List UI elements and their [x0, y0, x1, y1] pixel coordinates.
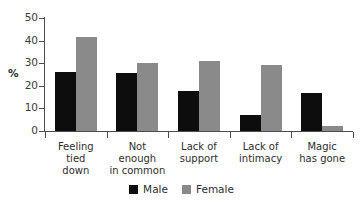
x-axis-category-label: Magic has gone: [285, 141, 359, 165]
x-axis-tick: [291, 132, 292, 138]
x-axis-tick: [353, 132, 354, 138]
bar-female: [261, 65, 282, 131]
bar-male: [116, 73, 137, 131]
x-axis-tick: [230, 132, 231, 138]
y-axis-tick-label: 20: [8, 80, 38, 91]
y-axis-title: %: [8, 67, 19, 79]
bar-female: [199, 61, 220, 131]
x-axis-tick: [45, 132, 46, 138]
y-axis-tick-label: 40: [8, 35, 38, 46]
bar-male: [178, 91, 199, 131]
chart-legend: MaleFemale: [0, 183, 363, 195]
y-axis-tick-label: 30: [8, 57, 38, 68]
x-axis-tick: [107, 132, 108, 138]
bar-male: [301, 93, 322, 131]
bar-female: [322, 126, 343, 131]
legend-item-female[interactable]: Female: [182, 183, 234, 195]
bar-female: [76, 37, 97, 131]
legend-label: Female: [196, 183, 234, 195]
x-axis-line: [44, 131, 353, 132]
bar-male: [240, 115, 261, 131]
y-axis-tick-label: 50: [8, 12, 38, 23]
x-axis-tick: [168, 132, 169, 138]
legend-item-male[interactable]: Male: [129, 183, 168, 195]
bar-chart: % 01020304050 Feeling tied downNot enoug…: [0, 0, 363, 205]
y-axis-tick-label: 10: [8, 102, 38, 113]
legend-label: Male: [143, 183, 168, 195]
bar-female: [137, 63, 158, 131]
bar-male: [55, 72, 76, 131]
y-axis-tick-label: 0: [8, 125, 38, 136]
male-swatch-icon: [129, 185, 138, 194]
female-swatch-icon: [182, 185, 191, 194]
plot-area: [45, 18, 353, 131]
